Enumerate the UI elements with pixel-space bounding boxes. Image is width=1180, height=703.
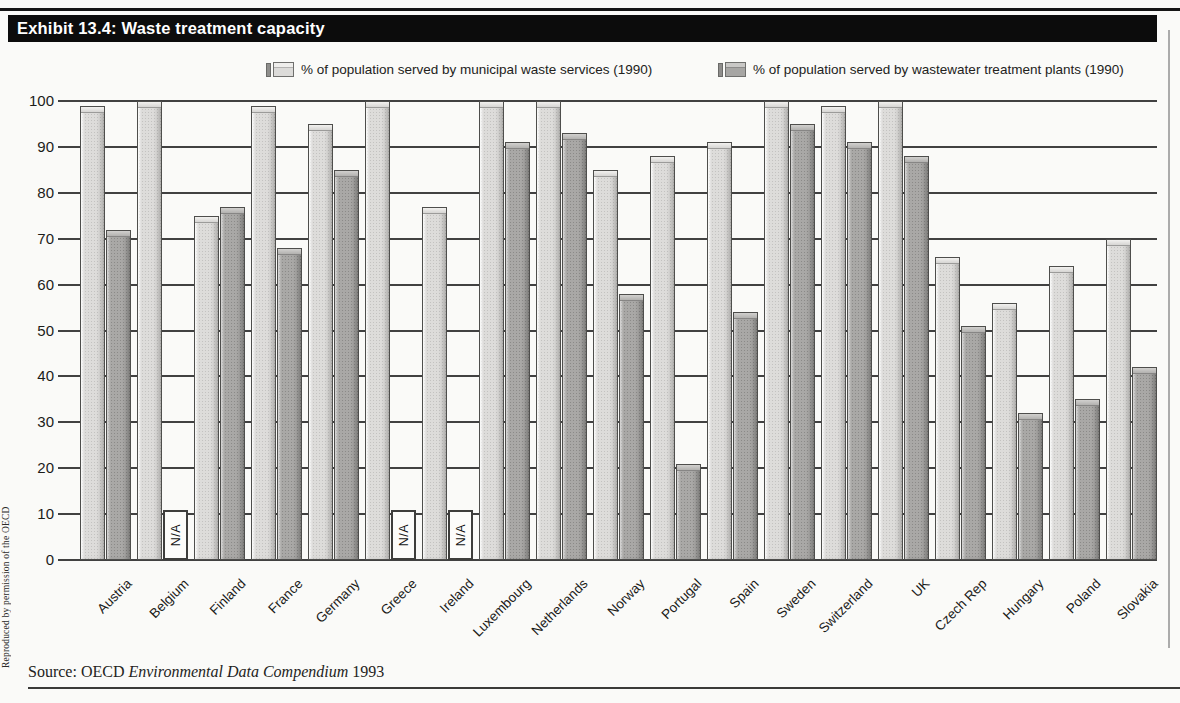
- legend-item-wastewater: % of population served by wastewater tre…: [718, 62, 1124, 77]
- bar-municipal-belgium: [137, 101, 162, 560]
- bar-municipal-netherlands: [536, 101, 561, 560]
- bar-wastewater-netherlands: [562, 133, 587, 560]
- bar-wastewater-portugal: [676, 464, 701, 560]
- bar-municipal-spain: [707, 142, 732, 560]
- bar-wastewater-switzerland: [847, 142, 872, 560]
- bar-municipal-germany: [308, 124, 333, 560]
- bar-municipal-poland: [1049, 266, 1074, 560]
- y-axis-label-90: 90: [12, 138, 54, 155]
- bar-municipal-austria: [80, 106, 105, 560]
- bar-municipal-slovakia: [1106, 239, 1131, 560]
- legend-label-municipal: % of population served by municipal wast…: [301, 62, 652, 77]
- bar-municipal-luxembourg: [479, 101, 504, 560]
- chart-legend: % of population served by municipal wast…: [0, 62, 1180, 84]
- page-edge-line: [1168, 30, 1170, 648]
- na-box-greece: N/A: [391, 510, 416, 560]
- bar-wastewater-spain: [733, 312, 758, 560]
- gridline-100: [58, 100, 1157, 102]
- bar-wastewater-luxembourg: [505, 142, 530, 560]
- na-box-belgium: N/A: [163, 510, 188, 560]
- bar-municipal-uk: [878, 101, 903, 560]
- bar-wastewater-finland: [220, 207, 245, 560]
- page-top-rule: [0, 8, 1180, 11]
- y-axis-label-30: 30: [12, 413, 54, 430]
- na-label: N/A: [397, 524, 411, 546]
- source-year: 1993: [348, 663, 384, 680]
- na-box-ireland: N/A: [448, 510, 473, 560]
- bar-municipal-france: [251, 106, 276, 560]
- bar-municipal-switzerland: [821, 106, 846, 560]
- bar-wastewater-austria: [106, 230, 131, 560]
- bar-municipal-hungary: [992, 303, 1017, 560]
- bar-wastewater-slovakia: [1132, 367, 1157, 560]
- exhibit-title: Exhibit 13.4: Waste treatment capacity: [8, 19, 325, 38]
- page-bottom-rule: [28, 687, 1180, 689]
- source-title-italic: Environmental Data Compendium: [128, 663, 348, 680]
- bar-wastewater-uk: [904, 156, 929, 560]
- y-axis-label-60: 60: [12, 276, 54, 293]
- legend-item-municipal-waste: % of population served by municipal wast…: [266, 62, 652, 77]
- legend-swatch-municipal-icon: [266, 62, 294, 77]
- bar-municipal-norway: [593, 170, 618, 560]
- bar-municipal-sweden: [764, 101, 789, 560]
- bar-wastewater-germany: [334, 170, 359, 560]
- bar-municipal-czech-rep: [935, 257, 960, 560]
- legend-label-wastewater: % of population served by wastewater tre…: [753, 62, 1124, 77]
- source-prefix: Source: OECD: [28, 663, 128, 680]
- bar-wastewater-poland: [1075, 399, 1100, 560]
- gridline-90: [58, 146, 1157, 148]
- bar-wastewater-sweden: [790, 124, 815, 560]
- y-axis-label-0: 0: [12, 551, 54, 568]
- bar-wastewater-norway: [619, 294, 644, 560]
- permission-note: Reproduced by permission of the OECD: [1, 468, 16, 668]
- legend-swatch-wastewater-icon: [718, 62, 746, 77]
- bar-municipal-ireland: [422, 207, 447, 560]
- y-axis-label-40: 40: [12, 367, 54, 384]
- y-axis-label-10: 10: [12, 505, 54, 522]
- bar-wastewater-czech-rep: [961, 326, 986, 560]
- bar-municipal-greece: [365, 101, 390, 560]
- y-axis-label-80: 80: [12, 184, 54, 201]
- y-axis-label-20: 20: [12, 459, 54, 476]
- bar-wastewater-france: [277, 248, 302, 560]
- na-label: N/A: [454, 524, 468, 546]
- bar-wastewater-hungary: [1018, 413, 1043, 560]
- exhibit-title-bar: Exhibit 13.4: Waste treatment capacity: [8, 15, 1157, 42]
- bar-municipal-finland: [194, 216, 219, 560]
- na-label: N/A: [169, 524, 183, 546]
- source-caption: Source: OECD Environmental Data Compendi…: [28, 663, 384, 681]
- y-axis-label-70: 70: [12, 230, 54, 247]
- bar-municipal-portugal: [650, 156, 675, 560]
- y-axis-label-50: 50: [12, 322, 54, 339]
- y-axis-label-100: 100: [12, 92, 54, 109]
